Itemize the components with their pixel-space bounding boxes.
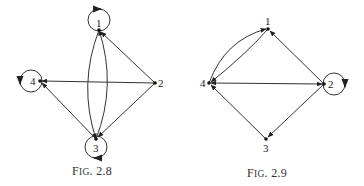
figure-2-9-graph: 1 2 3 4 <box>200 15 345 154</box>
node-label-4: 4 <box>200 77 206 89</box>
edge-2-to-3 <box>268 84 324 137</box>
edge-4-2-bidirectional <box>211 83 322 84</box>
edge-3-to-1 <box>96 30 107 139</box>
edge-2-to-1 <box>270 31 324 84</box>
node-label-4: 4 <box>30 75 36 87</box>
edge-2-to-4 <box>42 81 155 83</box>
edge-3-to-4 <box>211 85 266 139</box>
caption-number: . 2.9 <box>265 166 288 180</box>
node-label-3: 3 <box>93 142 99 154</box>
node-dot <box>207 81 211 85</box>
edge-1-to-3 <box>88 30 99 139</box>
caption-smallcaps: IG <box>254 169 265 179</box>
node-label-1: 1 <box>96 17 102 29</box>
node-dot <box>266 27 270 31</box>
node-label-2: 2 <box>158 77 164 89</box>
edge-2-to-1 <box>101 32 155 83</box>
node-dot <box>94 137 98 141</box>
node-dot <box>264 137 268 141</box>
node-dot <box>322 82 326 86</box>
figure-2-8-graph: 1 2 3 4 <box>20 9 164 158</box>
self-loop-node-2 <box>323 73 345 95</box>
caption-number: . 2.8 <box>90 164 113 178</box>
node-label-3: 3 <box>263 142 269 154</box>
edge-1-to-4 <box>211 29 268 82</box>
node-label-1: 1 <box>265 15 271 27</box>
figures-canvas: 1 2 3 4 1 2 3 4 <box>0 0 364 186</box>
caption-prefix: F <box>72 164 79 178</box>
caption-prefix: F <box>247 166 254 180</box>
caption-fig-2-8: FIG. 2.8 <box>72 164 112 179</box>
node-dot <box>153 81 157 85</box>
caption-smallcaps: IG <box>79 167 90 177</box>
edge-4-to-1 <box>209 29 266 83</box>
node-dot <box>38 79 42 83</box>
node-label-2: 2 <box>328 78 334 90</box>
caption-fig-2-9: FIG. 2.9 <box>247 166 287 181</box>
